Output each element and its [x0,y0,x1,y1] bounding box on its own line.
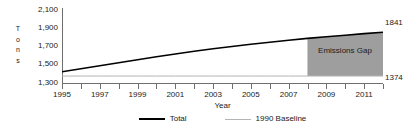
y-axis-tick-labels: 2,100 1,900 1,700 1,500 1,300 [24,0,58,131]
x-axis-tick [81,84,82,89]
y-axis-tick-label: 1,500 [24,59,58,68]
y-axis-title-letter: n [12,45,24,56]
x-axis-title: Year [62,101,383,111]
legend-label-1990-baseline: 1990 Baseline [256,114,307,124]
x-axis-tick [308,84,309,89]
y-axis-tick-label: 2,100 [24,5,58,14]
x-axis-tick [326,84,327,89]
y-axis-title: T o n s [12,24,24,66]
annotation-baseline-value: 1374 [385,73,403,82]
x-axis-tick-label: 1997 [85,90,115,100]
x-axis-tick-label: 2003 [198,90,228,100]
x-axis-tick [232,84,233,89]
legend-label-total: Total [170,114,187,124]
x-axis-tick [62,84,63,89]
legend-item-1990-baseline: 1990 Baseline [225,114,307,124]
x-axis-tick-label: 1999 [123,90,153,100]
x-axis-tick [119,84,120,89]
y-axis-title-letter: T [12,24,24,35]
x-axis-tick [175,84,176,89]
x-axis-tick-label: 2005 [236,90,266,100]
x-axis-tick [100,84,101,89]
y-axis-title-letter: o [12,35,24,46]
x-axis-tick [194,84,195,89]
chart-legend: Total 1990 Baseline [62,112,383,126]
x-axis-tick-label: 2007 [274,90,304,100]
x-axis-tick [383,84,384,89]
legend-swatch-baseline-icon [225,119,251,120]
x-axis-tick-label: 1995 [47,90,77,100]
x-axis-tick [213,84,214,89]
x-axis-tick [345,84,346,89]
y-axis-tick-label: 1,700 [24,41,58,50]
emissions-gap-label: Emissions Gap [306,46,384,56]
x-axis-tick [156,84,157,89]
x-axis-tick [364,84,365,89]
legend-swatch-total-icon [139,118,165,120]
x-axis-tick [251,84,252,89]
y-axis-title-letter: s [12,56,24,67]
x-axis-tick-label: 2011 [349,90,379,100]
y-axis-tick-label: 1,300 [24,78,58,87]
x-axis-tick [138,84,139,89]
x-axis-tick [289,84,290,89]
emissions-gap-line-chart: T o n s 2,100 1,900 1,700 1,500 1,300 19… [0,0,418,131]
legend-item-total: Total [139,114,187,124]
x-axis-tick-label: 2001 [160,90,190,100]
y-axis-tick-label: 1,900 [24,23,58,32]
x-axis-tick [270,84,271,89]
annotation-total-end-value: 1841 [385,18,403,27]
x-axis-tick-label: 2009 [311,90,341,100]
